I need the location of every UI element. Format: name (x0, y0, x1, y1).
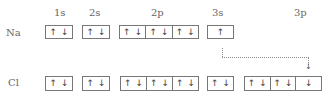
orbital-cell: ↑↓ (83, 77, 109, 90)
spin-up-icon: ↑ (149, 28, 157, 37)
orbital-cell: ↑↓ (172, 77, 198, 90)
orbital-cell: ↑↓ (208, 77, 233, 90)
cl-3s-box: ↑↓ (207, 76, 234, 91)
spin-up-icon: ↑ (86, 79, 94, 88)
spin-up-icon: ↑ (176, 79, 184, 88)
na-3s-box: ↑ (207, 25, 234, 39)
orbital-cell: ↑↓ (83, 26, 109, 38)
spin-up-icon: ↑ (49, 79, 57, 88)
orbital-cell: ↑↓ (245, 77, 270, 90)
spin-up-icon: ↑ (217, 28, 225, 37)
spin-down-icon: ↓ (136, 79, 144, 88)
transfer-line-horizontal (222, 57, 309, 58)
header-2s: 2s (89, 7, 101, 18)
orbital-cell: ↑↓ (46, 26, 72, 38)
orbital-cell: ↑↓ (120, 26, 145, 38)
na-1s-box: ↑↓ (45, 25, 73, 39)
spin-up-icon: ↑ (49, 28, 57, 37)
orbital-cell: ↑↓ (121, 77, 146, 90)
spin-up-icon: ↑ (150, 79, 158, 88)
orbital-cell: ↑↓ (172, 26, 198, 38)
spin-down-icon: ↓ (98, 28, 106, 37)
orbital-cell: ↓ (295, 77, 321, 90)
spin-down-icon: ↓ (98, 79, 106, 88)
cl-2p-box: ↑↓ ↑↓ ↑↓ (120, 76, 199, 91)
spin-up-icon: ↑ (211, 79, 219, 88)
element-label-na: Na (6, 27, 21, 38)
cl-3p-box: ↑↓ ↑↓ ↓ (244, 76, 322, 91)
transfer-line-vertical (222, 48, 223, 57)
orbital-cell: ↑↓ (270, 77, 296, 90)
arrow-down-icon: ↓ (305, 63, 312, 71)
spin-down-icon: ↓ (162, 79, 170, 88)
spin-down-icon: ↓ (161, 28, 169, 37)
na-2p-box: ↑↓ ↑↓ ↑↓ (119, 25, 199, 39)
spin-down-icon: ↓ (285, 79, 293, 88)
spin-up-icon: ↑ (248, 79, 256, 88)
na-2s-box: ↑↓ (82, 25, 110, 39)
orbital-cell: ↑↓ (46, 77, 72, 90)
spin-up-icon: ↑ (123, 28, 131, 37)
spin-down-icon: ↓ (187, 28, 195, 37)
spin-up-icon: ↑ (124, 79, 132, 88)
cl-1s-box: ↑↓ (45, 76, 73, 91)
spin-down-icon: ↓ (61, 28, 69, 37)
spin-up-icon: ↑ (176, 28, 184, 37)
spin-up-icon: ↑ (273, 79, 281, 88)
spin-up-icon: ↑ (86, 28, 94, 37)
element-label-cl: Cl (8, 77, 19, 88)
orbital-cell: ↑↓ (145, 26, 171, 38)
header-3s: 3s (212, 7, 224, 18)
spin-down-icon: ↓ (305, 79, 313, 88)
spin-down-icon: ↓ (223, 79, 231, 88)
header-3p: 3p (294, 7, 307, 18)
spin-down-icon: ↓ (61, 79, 69, 88)
header-1s: 1s (54, 7, 66, 18)
header-2p: 2p (151, 7, 164, 18)
spin-down-icon: ↓ (259, 79, 267, 88)
spin-down-icon: ↓ (188, 79, 196, 88)
cl-2s-box: ↑↓ (82, 76, 110, 91)
orbital-cell: ↑↓ (146, 77, 172, 90)
orbital-cell: ↑ (208, 26, 233, 38)
spin-down-icon: ↓ (135, 28, 143, 37)
